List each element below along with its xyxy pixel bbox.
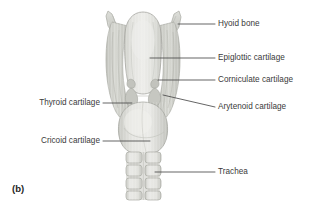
label-arytenoid-cartilage: Arytenoid cartilage xyxy=(218,103,286,111)
label-epiglottic-cartilage: Epiglottic cartilage xyxy=(218,54,285,62)
cricoid-cartilage-shape xyxy=(118,102,169,156)
label-corniculate-cartilage: Corniculate cartilage xyxy=(218,76,293,84)
label-hyoid-bone: Hyoid bone xyxy=(218,20,260,28)
label-thyroid-cartilage: Thyroid cartilage xyxy=(39,99,100,107)
panel-letter: (b) xyxy=(12,184,24,194)
figure-panel-b: Hyoid bone Epiglottic cartilage Cornicul… xyxy=(0,0,319,210)
trachea-shape xyxy=(126,152,161,200)
label-cricoid-cartilage: Cricoid cartilage xyxy=(41,137,100,145)
label-trachea: Trachea xyxy=(218,168,248,176)
